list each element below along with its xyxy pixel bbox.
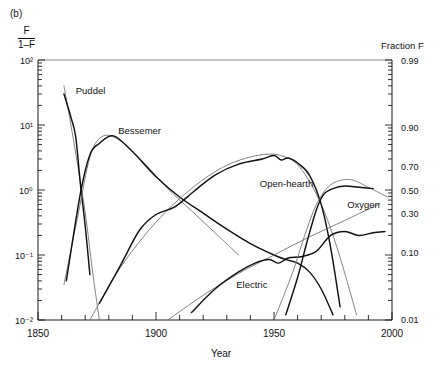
y-axis-left-tick-label: 10² [20,56,33,66]
y-axis-left-tick-label: 10⁻² [15,316,33,326]
curve-label-oxygen: Oxygen [347,199,380,210]
series-bessemer-data [66,136,333,315]
series-bessemer-logistic-fit [64,135,239,285]
plot-frame [38,60,392,320]
y-axis-right-tick-label: 0.01 [401,315,419,325]
x-axis-tick-label: 1900 [145,328,168,339]
curve-layer [64,86,387,320]
chart-figure: (b) F 1–F Fraction F Year 10²10¹10⁰10⁻¹1… [0,0,442,368]
series-open-hearth-logistic-fit [90,154,357,320]
x-axis-tick-label: 1850 [27,328,50,339]
y-axis-left-tick-label: 10⁰ [19,186,33,196]
y-axis-right-tick-label: 0.70 [401,162,419,172]
curve-label-electric: Electric [236,279,267,290]
curve-label-puddel: Puddel [76,85,106,96]
series-puddel-data [64,94,90,275]
series-electric-data [191,231,385,312]
y-axis-right-tick-label: 0.99 [401,56,419,66]
x-axis-tick-label: 1950 [263,328,286,339]
series-puddel-logistic-fit [64,86,99,320]
y-axis-right-tick-label: 0.30 [401,209,419,219]
y-axis-right-tick-label: 0.50 [401,186,419,196]
tick-layer: 10²10¹10⁰10⁻¹10⁻²0.990.900.700.500.300.1… [15,56,419,340]
curve-label-bessemer: Bessemer [118,125,161,136]
y-axis-right-tick-label: 0.10 [401,248,419,258]
chart-canvas: 10²10¹10⁰10⁻¹10⁻²0.990.900.700.500.300.1… [0,0,442,368]
y-axis-right-tick-label: 0.90 [401,123,419,133]
x-axis-tick-label: 2000 [381,328,404,339]
y-axis-left-tick-label: 10⁻¹ [15,251,33,261]
curve-label-open-hearth: Open-hearth [260,178,313,189]
y-axis-left-tick-label: 10¹ [20,121,33,131]
